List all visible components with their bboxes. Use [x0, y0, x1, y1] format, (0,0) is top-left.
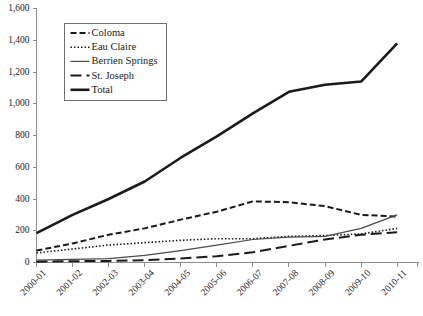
- x-tick-label: 2006-07: [235, 268, 265, 298]
- y-tick-label: 600: [15, 162, 30, 172]
- y-tick-label: 200: [15, 225, 30, 235]
- series-line-coloma: [37, 201, 398, 250]
- y-tick-label: 0: [25, 257, 30, 267]
- x-tick-label: 2004-05: [163, 268, 193, 298]
- y-tick-label: 1,400: [8, 35, 30, 45]
- x-tick-label: 2008-09: [307, 268, 337, 298]
- y-tick-label: 800: [15, 130, 30, 140]
- y-tick-label: 1,000: [8, 98, 30, 108]
- x-tick-label: 2002-03: [91, 268, 121, 298]
- x-tick-label: 2001-02: [55, 268, 85, 298]
- legend-label: Eau Claire: [92, 41, 137, 52]
- x-tick-label: 2000-01: [18, 268, 48, 298]
- legend-label: St. Joseph: [92, 70, 135, 81]
- x-tick-label: 2010-11: [379, 268, 408, 297]
- x-tick-label: 2005-06: [199, 268, 229, 298]
- y-tick-label: 1,600: [8, 3, 30, 13]
- x-axis: 2000-012001-022002-032003-042004-052005-…: [18, 263, 419, 298]
- legend-label: Coloma: [92, 27, 126, 38]
- y-tick-label: 1,200: [8, 67, 30, 77]
- chart-container: 02004006008001,0001,2001,4001,600 2000-0…: [0, 0, 423, 316]
- chart-legend: ColomaEau ClaireBerrien SpringsSt. Josep…: [65, 24, 167, 101]
- x-tick-label: 2009-10: [343, 268, 373, 298]
- legend-label: Berrien Springs: [92, 55, 158, 66]
- series-line-st-joseph: [37, 232, 398, 261]
- x-tick-label: 2003-04: [127, 268, 157, 298]
- line-chart: 02004006008001,0001,2001,4001,600 2000-0…: [0, 0, 423, 316]
- x-tick-label: 2007-08: [271, 268, 301, 298]
- legend-label: Total: [92, 84, 114, 95]
- y-tick-label: 400: [15, 194, 30, 204]
- y-axis: 02004006008001,0001,2001,4001,600: [8, 3, 36, 267]
